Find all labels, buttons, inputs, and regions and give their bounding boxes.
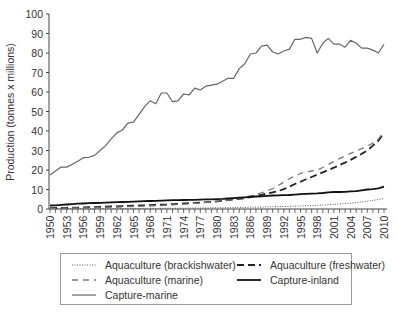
x-tick-label: 1977: [194, 215, 206, 239]
y-tick-label: 90: [31, 28, 43, 40]
legend-item-capture-marine: Capture-marine: [71, 289, 178, 301]
y-axis-title: Production (tonnes x millions): [4, 43, 16, 181]
y-tick-label: 40: [31, 125, 43, 137]
x-tick-label: 1989: [261, 215, 273, 239]
x-tick-label: 1953: [61, 215, 73, 239]
x-tick-label: 1962: [111, 215, 123, 239]
y-tick-label: 70: [31, 67, 43, 79]
x-tick-label: 1959: [94, 215, 106, 239]
y-tick-label: 0: [37, 203, 43, 215]
dotted-line-icon: [71, 262, 97, 268]
series-line-capture-inland: [50, 187, 384, 206]
series-line-aquaculture-freshwater: [50, 133, 384, 208]
y-tick-label: 10: [31, 184, 43, 196]
series-line-capture-marine: [50, 37, 384, 175]
legend-label: Aquaculture (freshwater): [270, 259, 385, 271]
y-tick-label: 30: [31, 145, 43, 157]
legend-item-freshwater: Aquaculture (freshwater): [236, 259, 385, 271]
y-tick-label: 80: [31, 47, 43, 59]
legend-item-capture-inland: Capture-inland: [236, 274, 339, 286]
x-tick-label: 1983: [228, 215, 240, 239]
legend: Aquaculture (brackishwater) Aquaculture …: [60, 253, 352, 305]
x-tick-label: 2010: [378, 215, 390, 239]
legend-label: Capture-marine: [105, 289, 178, 301]
legend-label: Aquaculture (brackishwater): [105, 259, 236, 271]
x-tick-label: 1965: [128, 215, 140, 239]
long-dashed-line-icon: [71, 277, 97, 283]
legend-label: Aquaculture (marine): [105, 274, 203, 286]
y-axis: 0102030405060708090100: [25, 8, 49, 215]
thin-line-icon: [71, 292, 97, 298]
x-tick-label: 1974: [178, 215, 190, 239]
legend-item-marine-aquaculture: Aquaculture (marine): [71, 274, 203, 286]
x-tick-label: 1998: [311, 215, 323, 239]
y-tick-label: 60: [31, 86, 43, 98]
y-tick-label: 50: [31, 106, 43, 118]
x-tick-label: 1968: [144, 215, 156, 239]
x-tick-label: 1992: [278, 215, 290, 239]
dashed-line-icon: [236, 262, 262, 268]
x-tick-label: 1950: [44, 215, 56, 239]
legend-item-brackishwater: Aquaculture (brackishwater): [71, 259, 236, 271]
thick-line-icon: [236, 277, 262, 283]
y-tick-label: 100: [25, 8, 43, 20]
x-tick-label: 2007: [361, 215, 373, 239]
plot-area: [50, 37, 384, 208]
x-axis: 1950195319561959196219651968197119741977…: [44, 209, 390, 239]
x-tick-label: 1886: [244, 215, 256, 239]
x-tick-label: 1980: [211, 215, 223, 239]
x-tick-label: 1995: [295, 215, 307, 239]
x-tick-label: 2004: [345, 215, 357, 239]
legend-label: Capture-inland: [270, 274, 339, 286]
x-tick-label: 2001: [328, 215, 340, 239]
x-tick-label: 1956: [77, 215, 89, 239]
y-tick-label: 20: [31, 164, 43, 176]
series-line-aquaculture-marine: [50, 132, 384, 208]
x-tick-label: 1971: [161, 215, 173, 239]
